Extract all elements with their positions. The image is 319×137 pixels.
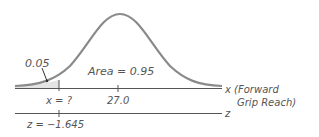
mean-label: 27.0 [107, 95, 129, 106]
x-axis-label-2: Grip Reach) [237, 97, 296, 108]
x-unknown-label: x = ? [45, 95, 73, 106]
z-value-label: z = −1.645 [26, 119, 84, 130]
x-axis-label-1: x (Forward [224, 84, 279, 95]
pointer-dot [46, 80, 49, 83]
normal-curve-diagram: 0.05 Area = 0.95 x = ? 27.0 x (Forward G… [0, 0, 319, 137]
center-area-label: Area = 0.95 [87, 65, 154, 78]
z-axis-label: z [224, 108, 231, 119]
tail-area-label: 0.05 [25, 57, 50, 70]
